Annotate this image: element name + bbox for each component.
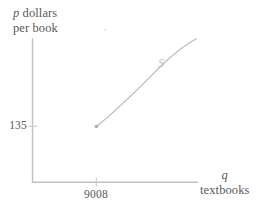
supply-curve-figure: p dollars per book q textbooks 135 9008 … bbox=[0, 0, 257, 214]
x-axis-variable: q bbox=[222, 168, 228, 182]
y-axis-label-line-2: per book bbox=[13, 21, 58, 36]
x-axis-tick-label-9008: 9008 bbox=[78, 188, 114, 200]
x-axis-label: q textbooks bbox=[200, 168, 250, 197]
y-axis-label-line-1: p dollars bbox=[13, 6, 58, 21]
y-axis-label: p dollars per book bbox=[13, 6, 58, 35]
y-axis-label-line-1-text: dollars bbox=[19, 6, 57, 20]
supply-curve-path bbox=[97, 39, 197, 127]
curve-start-point-marker bbox=[95, 125, 98, 128]
x-axis-label-line-1: q bbox=[200, 168, 250, 183]
supply-curve-label: S bbox=[158, 56, 164, 71]
stray-speck-artifact bbox=[104, 29, 106, 31]
y-axis-tick-label-135: 135 bbox=[5, 119, 27, 131]
x-axis-label-line-2: textbooks bbox=[200, 183, 250, 198]
